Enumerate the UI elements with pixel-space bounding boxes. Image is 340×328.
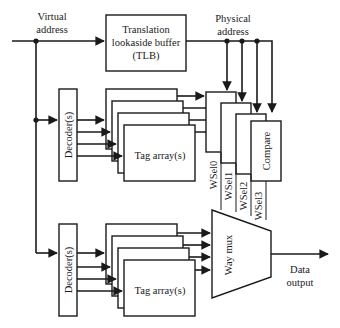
svg-text:Translation: Translation — [122, 24, 170, 35]
svg-text:WSel1: WSel1 — [223, 172, 234, 201]
svg-text:lookaside buffer: lookaside buffer — [112, 37, 181, 48]
physical-address-label: Physical address — [215, 13, 251, 37]
svg-text:Virtual: Virtual — [37, 11, 66, 22]
decoder-bottom: Decoder(s) — [59, 224, 77, 316]
svg-text:address: address — [36, 24, 68, 35]
svg-text:Tag array(s): Tag array(s) — [135, 150, 186, 162]
way-mux: Way mux — [212, 210, 271, 298]
tag-array-bottom: Tag array(s) — [106, 224, 195, 316]
svg-text:Decoder(s): Decoder(s) — [63, 246, 75, 293]
virtual-address-label: Virtual address — [36, 11, 68, 35]
svg-text:Compare: Compare — [261, 131, 272, 170]
data-output-label: Data output — [287, 264, 314, 288]
cache-diagram: Virtual address Translation lookaside bu… — [0, 0, 340, 328]
svg-text:WSel2: WSel2 — [238, 182, 249, 211]
svg-text:output: output — [287, 277, 314, 288]
svg-text:Decoder(s): Decoder(s) — [63, 111, 75, 158]
svg-text:Tag array(s): Tag array(s) — [135, 285, 186, 297]
decoder-top: Decoder(s) — [59, 89, 77, 181]
svg-text:(TLB): (TLB) — [133, 50, 160, 62]
svg-text:Physical: Physical — [215, 13, 251, 24]
svg-text:Way mux: Way mux — [223, 234, 234, 275]
tlb-block: Translation lookaside buffer (TLB) — [106, 15, 186, 71]
svg-text:WSel0: WSel0 — [208, 161, 219, 190]
svg-text:address: address — [217, 26, 249, 37]
svg-text:Data: Data — [290, 264, 310, 275]
tag-array-top: Tag array(s) — [106, 89, 195, 181]
svg-text:WSel3: WSel3 — [253, 192, 264, 221]
